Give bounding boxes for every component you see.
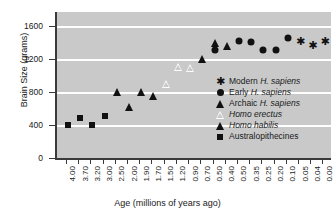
x-tick-label: 0.04 <box>314 166 322 182</box>
x-tick-mark <box>90 159 91 164</box>
data-point <box>174 63 182 71</box>
x-tick-label: 0.10 <box>289 166 297 182</box>
brain-size-scatter-chart: Brain Size (grams) 040080012001600 ✱✱✱ 4… <box>0 0 335 214</box>
x-tick-mark <box>249 159 250 164</box>
legend-marker <box>214 120 226 131</box>
x-tick-label: 3.20 <box>94 166 102 182</box>
y-axis-title: Brain Size (grams) <box>19 15 29 125</box>
legend-item: Homo habilis <box>214 120 300 131</box>
square-marker-icon <box>65 122 71 128</box>
circle-marker-icon <box>248 38 255 45</box>
x-tick-mark <box>115 159 116 164</box>
triangle-marker-icon <box>216 122 224 130</box>
asterisk-marker-icon: ✱ <box>308 42 316 50</box>
x-tick-label: 0.50 <box>216 166 224 182</box>
x-tick-label: 2.00 <box>131 166 139 182</box>
legend-marker <box>214 87 226 98</box>
square-marker-icon <box>217 134 223 140</box>
y-tick-label: 800 <box>29 88 43 96</box>
circle-marker-icon <box>211 47 218 54</box>
legend-marker: ✱ <box>214 76 226 87</box>
legend-marker <box>214 98 226 109</box>
x-tick-label: 0.25 <box>265 166 273 182</box>
x-tick-mark <box>225 159 226 164</box>
x-tick-label: 0.70 <box>204 166 212 182</box>
x-tick-mark <box>151 159 152 164</box>
x-axis-line <box>55 158 331 160</box>
x-tick-mark <box>286 159 287 164</box>
legend-label: Archaic H. sapiens <box>229 98 300 109</box>
x-tick-mark <box>261 159 262 164</box>
data-point <box>77 115 83 121</box>
triangle-marker-icon <box>125 103 133 111</box>
x-tick-mark <box>78 159 79 164</box>
x-tick-label: 0.05 <box>302 166 310 182</box>
legend-item: Australopithecines <box>214 131 300 142</box>
data-point <box>284 34 291 41</box>
data-point <box>102 113 108 119</box>
x-tick-label: 3.70 <box>82 166 90 182</box>
gridline <box>57 59 333 61</box>
x-tick-mark <box>237 159 238 164</box>
data-point: ✱ <box>320 38 328 46</box>
square-marker-icon <box>89 122 95 128</box>
open-triangle-marker-icon <box>216 111 224 119</box>
data-point <box>248 38 255 45</box>
legend-item: Early H. sapiens <box>214 87 300 98</box>
legend-item: Homo erectus <box>214 109 300 120</box>
circle-marker-icon <box>235 38 242 45</box>
data-point <box>272 46 279 53</box>
x-tick-label: 1.50 <box>167 166 175 182</box>
x-tick-label: 0.35 <box>253 166 261 182</box>
triangle-marker-icon <box>223 42 231 50</box>
x-tick-mark <box>139 159 140 164</box>
x-tick-mark <box>127 159 128 164</box>
x-tick-mark <box>176 159 177 164</box>
y-tick-label: 1200 <box>24 55 43 63</box>
legend-label: Australopithecines <box>229 131 298 142</box>
data-point <box>149 92 157 100</box>
square-marker-icon <box>102 113 108 119</box>
data-point: ✱ <box>308 42 316 50</box>
data-point <box>89 122 95 128</box>
y-tick-label: 0 <box>38 154 43 162</box>
x-tick-mark <box>66 159 67 164</box>
legend-item: ✱Modern H. sapiens <box>214 76 300 87</box>
x-tick-mark <box>188 159 189 164</box>
legend-marker <box>214 109 226 120</box>
open-triangle-marker-icon <box>174 63 182 71</box>
legend-item: Archaic H. sapiens <box>214 98 300 109</box>
x-tick-label: 0.40 <box>228 166 236 182</box>
x-tick-label: 1.20 <box>179 166 187 182</box>
open-triangle-marker-icon <box>162 80 170 88</box>
square-marker-icon <box>77 115 83 121</box>
x-tick-label: 0.00 <box>326 166 334 182</box>
triangle-marker-icon <box>137 88 145 96</box>
x-tick-label: 1.70 <box>155 166 163 182</box>
legend-label: Modern H. sapiens <box>229 76 300 87</box>
data-point <box>125 103 133 111</box>
data-point <box>137 88 145 96</box>
y-tick-label: 400 <box>29 121 43 129</box>
x-tick-mark <box>310 159 311 164</box>
triangle-marker-icon <box>198 55 206 63</box>
x-tick-mark <box>298 159 299 164</box>
triangle-marker-icon <box>211 39 219 47</box>
data-point <box>211 47 218 54</box>
x-tick-label: 0.90 <box>192 166 200 182</box>
circle-marker-icon <box>272 46 279 53</box>
x-axis-title: Age (millions of years ago) <box>0 198 335 208</box>
asterisk-marker-icon: ✱ <box>320 38 328 46</box>
x-tick-label: 1.90 <box>143 166 151 182</box>
triangle-marker-icon <box>216 100 224 108</box>
x-tick-mark <box>213 159 214 164</box>
x-tick-label: 4.00 <box>69 166 77 182</box>
x-tick-label: 0.20 <box>277 166 285 182</box>
data-point <box>211 39 219 47</box>
asterisk-marker-icon: ✱ <box>216 78 224 86</box>
data-point <box>186 64 194 72</box>
x-tick-mark <box>322 159 323 164</box>
x-tick-mark <box>103 159 104 164</box>
data-point: ✱ <box>296 38 304 46</box>
legend: ✱Modern H. sapiensEarly H. sapiensArchai… <box>214 76 300 143</box>
